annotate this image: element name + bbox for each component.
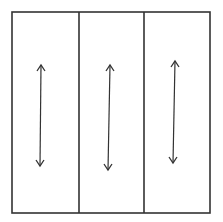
three-panel-diagram [0, 0, 223, 222]
double-arrow-icon [169, 61, 179, 163]
arrows-group [36, 61, 179, 170]
outer-frame [12, 12, 210, 213]
double-arrow-icon [104, 65, 114, 170]
panel-dividers [79, 12, 144, 213]
double-arrow-icon [36, 65, 45, 166]
